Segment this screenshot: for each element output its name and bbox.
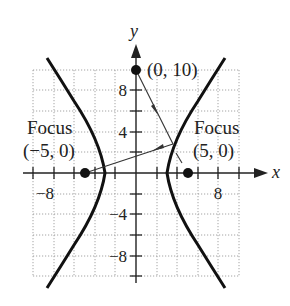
right-focus-point (183, 168, 193, 178)
x-tick-label-neg8: −8 (36, 184, 54, 203)
source-point-label: (0, 10) (147, 59, 198, 81)
x-axis-label: x (271, 162, 280, 182)
right-focus-coords: (5, 0) (193, 140, 234, 162)
incident-ray (136, 70, 173, 144)
source-point (131, 65, 141, 75)
x-tick-label-8: 8 (214, 184, 223, 203)
y-tick-label-neg8: −8 (109, 247, 127, 266)
left-focus-label: Focus (27, 117, 72, 138)
y-tick-label-neg4: −4 (109, 205, 128, 224)
y-axis (131, 44, 141, 283)
right-focus-label: Focus (194, 117, 239, 138)
hyperbola-diagram: −8 8 8 4 −4 −8 x y Focus (−5, 0) Focus (… (0, 0, 290, 306)
left-focus-coords: (−5, 0) (23, 140, 75, 162)
x-axis (23, 168, 268, 178)
y-tick-label-4: 4 (119, 123, 128, 142)
left-focus-point (80, 168, 90, 178)
y-tick-label-8: 8 (119, 81, 128, 100)
y-axis-label: y (128, 21, 138, 41)
